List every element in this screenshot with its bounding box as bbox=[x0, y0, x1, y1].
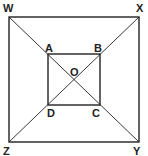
label-c: C bbox=[92, 107, 100, 119]
label-d: D bbox=[47, 107, 55, 119]
label-w: W bbox=[3, 2, 14, 14]
label-a: A bbox=[45, 42, 53, 54]
label-o: O bbox=[70, 66, 79, 78]
geometry-diagram: W X Y Z A B C D O bbox=[0, 0, 148, 156]
label-y: Y bbox=[133, 145, 141, 156]
label-z: Z bbox=[3, 145, 10, 156]
label-b: B bbox=[94, 42, 102, 54]
label-x: X bbox=[136, 2, 144, 14]
